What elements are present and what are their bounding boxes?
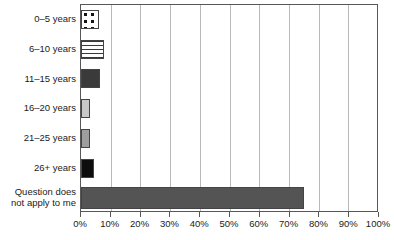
bar-3 <box>81 99 90 118</box>
x-axis-tick-label-30: 30% <box>160 218 179 229</box>
x-axis-tick-70 <box>289 212 290 217</box>
x-axis-tick-30 <box>169 212 170 217</box>
bar-row-4 <box>81 124 377 154</box>
x-axis-tick-0 <box>80 212 81 217</box>
y-axis-labels: 0–5 years 6–10 years 11–15 years 16–20 y… <box>0 4 76 212</box>
bar-2 <box>81 69 100 88</box>
x-axis-tick-10 <box>110 212 111 217</box>
bar-row-6 <box>81 183 377 213</box>
x-axis-tick-label-80: 80% <box>309 218 328 229</box>
y-axis-label-5: 26+ years <box>0 162 76 174</box>
x-axis-tick-50 <box>229 212 230 217</box>
bar-0 <box>81 10 99 29</box>
y-axis-label-1: 6–10 years <box>0 43 76 55</box>
bar-4 <box>81 129 90 148</box>
y-axis-label-3: 16–20 years <box>0 102 76 114</box>
x-axis-tick-label-10: 10% <box>100 218 119 229</box>
bar-5 <box>81 159 94 178</box>
x-axis-tick-60 <box>259 212 260 217</box>
x-axis-tick-label-20: 20% <box>130 218 149 229</box>
x-axis-tick-40 <box>199 212 200 217</box>
bar-row-3 <box>81 94 377 124</box>
y-axis-label-2: 11–15 years <box>0 73 76 85</box>
x-axis-tick-label-60: 60% <box>249 218 268 229</box>
bar-chart: 0–5 years 6–10 years 11–15 years 16–20 y… <box>0 0 394 240</box>
x-axis-tick-90 <box>348 212 349 217</box>
y-axis-label-0: 0–5 years <box>0 13 76 25</box>
y-axis-label-6: Question does not apply to me <box>0 186 76 209</box>
plot-area <box>80 4 378 212</box>
bar-row-2 <box>81 64 377 94</box>
bar-row-0 <box>81 5 377 35</box>
x-axis-tick-label-40: 40% <box>190 218 209 229</box>
x-axis-tick-100 <box>378 212 379 217</box>
x-axis-tick-label-70: 70% <box>279 218 298 229</box>
x-axis-tick-label-100: 100% <box>366 218 390 229</box>
x-axis-tick-label-90: 90% <box>339 218 358 229</box>
y-axis-label-4: 21–25 years <box>0 132 76 144</box>
x-axis-tick-20 <box>140 212 141 217</box>
x-axis-tick-label-50: 50% <box>219 218 238 229</box>
bar-6 <box>81 187 304 209</box>
x-axis-tick-label-0: 0% <box>73 218 87 229</box>
bar-1 <box>81 40 104 59</box>
x-axis-tick-80 <box>318 212 319 217</box>
bar-row-1 <box>81 35 377 65</box>
bar-row-5 <box>81 154 377 184</box>
